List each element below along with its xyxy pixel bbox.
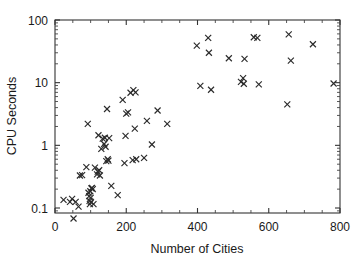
data-point-marker <box>67 199 73 205</box>
data-point-marker <box>132 126 138 132</box>
y-tick-label: 0.1 <box>31 202 48 216</box>
plot-frame <box>55 20 340 213</box>
y-tick-label: 1 <box>41 139 48 153</box>
chart-canvas: 02004006008000.1110100 Number of Cities … <box>0 0 364 264</box>
plot-border <box>55 20 340 213</box>
data-point-marker <box>286 31 292 37</box>
data-point-marker <box>256 81 262 87</box>
data-point-marker <box>106 135 112 141</box>
data-point-marker <box>206 50 212 56</box>
data-point-marker <box>164 121 170 127</box>
data-point-marker <box>125 109 131 115</box>
data-point-marker <box>241 81 247 87</box>
data-point-marker <box>115 192 121 198</box>
x-tick-label: 0 <box>52 220 59 234</box>
data-point-marker <box>121 160 127 166</box>
data-point-marker <box>254 35 260 41</box>
data-points <box>61 31 337 221</box>
data-point-marker <box>226 55 232 61</box>
y-axis-ticks <box>55 20 340 211</box>
x-axis-title: Number of Cities <box>150 242 243 256</box>
data-point-marker <box>85 121 91 127</box>
data-point-marker <box>194 43 200 49</box>
data-point-marker <box>155 107 161 113</box>
data-point-marker <box>123 133 129 139</box>
x-tick-label: 600 <box>259 220 279 234</box>
scatter-plot-figure: 02004006008000.1110100 Number of Cities … <box>0 0 364 264</box>
data-point-marker <box>90 201 96 207</box>
data-point-marker <box>141 155 147 161</box>
data-point-marker <box>149 142 155 148</box>
data-point-marker <box>71 215 77 221</box>
data-point-marker <box>331 80 337 86</box>
data-point-marker <box>208 87 214 93</box>
data-point-marker <box>108 183 114 189</box>
x-tick-label: 800 <box>330 220 350 234</box>
data-point-marker <box>144 118 150 124</box>
x-tick-label: 200 <box>116 220 136 234</box>
data-point-marker <box>95 132 101 138</box>
x-axis-ticks <box>55 20 340 213</box>
data-point-marker <box>197 83 203 89</box>
data-point-marker <box>133 89 139 95</box>
data-point-marker <box>242 56 248 62</box>
data-point-marker <box>61 197 67 203</box>
data-point-marker <box>288 58 294 64</box>
data-point-marker <box>284 101 290 107</box>
data-point-marker <box>104 106 110 112</box>
data-point-marker <box>310 41 316 47</box>
y-tick-label: 10 <box>35 76 49 90</box>
y-tick-label: 100 <box>28 14 48 28</box>
y-axis-title: CPU Seconds <box>5 77 19 156</box>
data-point-marker <box>120 97 126 103</box>
data-point-marker <box>83 164 89 170</box>
x-tick-label: 400 <box>187 220 207 234</box>
data-point-marker <box>205 35 211 41</box>
